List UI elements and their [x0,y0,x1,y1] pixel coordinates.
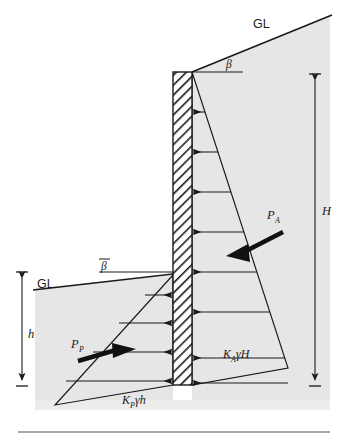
active-resultant-subscript: A [274,216,280,225]
slope-angle-label-left-group: β [99,259,110,273]
active-pressure-tail: γH [236,347,251,361]
retaining-wall-pressure-figure: GL β GL β H h P A P P K A γH [0,0,347,445]
earth-pressure-diagram: GL β GL β H h P A P P K A γH [0,0,347,445]
soil-mass-right [192,16,330,410]
embedment-height-dimension [16,272,28,386]
ground-line-label-right: GL [253,17,270,31]
passive-resultant-subscript: P [78,345,84,354]
active-resultant-label: P [266,208,275,222]
soil-base-band [35,400,330,410]
ground-line-label-left: GL [37,277,54,291]
slope-angle-label-left: β [100,260,107,273]
passive-pressure-tail: γh [135,393,146,407]
retaining-wall [173,72,192,385]
embedment-height-label: h [28,327,34,341]
total-height-label: H [321,204,332,218]
slope-angle-label-top: β [225,58,232,71]
passive-resultant-label: P [70,337,79,351]
